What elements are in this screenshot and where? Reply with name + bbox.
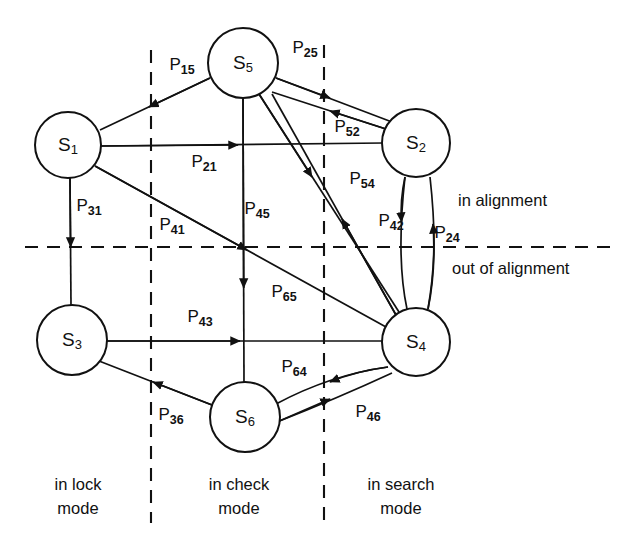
edge-P36-arrow xyxy=(153,382,212,405)
label-lock-mode-line2: mode xyxy=(57,499,98,517)
edge-label-P46: P46 xyxy=(355,402,380,424)
label-in-alignment: in alignment xyxy=(458,191,547,209)
edge-P15-arrow xyxy=(149,78,210,107)
node-S5[interactable]: S5 xyxy=(208,28,278,98)
edge-label-P41: P41 xyxy=(159,215,184,237)
edge-label-P54: P54 xyxy=(349,169,374,191)
label-check-mode-line2: mode xyxy=(218,499,259,517)
node-S2[interactable]: S2 xyxy=(382,109,450,177)
edge-label-P43: P43 xyxy=(187,307,212,329)
state-transition-diagram: S1 S2 S3 S4 S5 S6 xyxy=(0,0,624,547)
diagram-canvas: S1 S2 S3 S4 S5 S6 xyxy=(0,0,624,547)
edge-P54-arrow xyxy=(342,219,396,315)
node-S3[interactable]: S3 xyxy=(37,305,107,375)
edge-label-P24: P24 xyxy=(434,223,459,245)
label-lock-mode-line1: in lock xyxy=(55,475,103,493)
edge-P21-arrow xyxy=(101,145,238,146)
mode-dividers xyxy=(25,45,614,523)
edge-label-P21: P21 xyxy=(191,152,216,174)
edge-P46-arrow xyxy=(277,399,330,422)
edge-label-P45: P45 xyxy=(244,199,269,221)
edge-P31-arrow xyxy=(70,178,71,247)
edge-P41-arrow xyxy=(95,166,247,250)
label-search-mode-line1: in search xyxy=(368,475,435,493)
transition-edges xyxy=(70,78,434,422)
label-search-mode-line2: mode xyxy=(380,499,421,517)
node-S6[interactable]: S6 xyxy=(210,382,280,452)
state-nodes: S1 S2 S3 S4 S5 S6 xyxy=(35,28,450,452)
edge-P45-arrow xyxy=(259,94,312,177)
edge-label-P64: P64 xyxy=(281,357,306,379)
edge-label-P15: P15 xyxy=(169,55,194,77)
edge-label-P31: P31 xyxy=(76,196,101,218)
mode-labels: in lock mode in check mode in search mod… xyxy=(55,475,435,517)
edge-P65-arrow xyxy=(243,98,244,288)
edge-P25-arrow xyxy=(276,78,330,98)
node-S1[interactable]: S1 xyxy=(35,112,101,178)
label-check-mode-line1: in check xyxy=(209,475,270,493)
edge-label-P36: P36 xyxy=(158,405,183,427)
node-S4[interactable]: S4 xyxy=(382,308,450,376)
edge-label-P65: P65 xyxy=(271,282,296,304)
alignment-labels: in alignment out of alignment xyxy=(452,191,570,277)
edge-label-P52: P52 xyxy=(334,117,359,139)
label-out-of-alignment: out of alignment xyxy=(452,259,570,277)
edge-label-P42: P42 xyxy=(378,211,403,233)
edge-label-P25: P25 xyxy=(292,38,317,60)
